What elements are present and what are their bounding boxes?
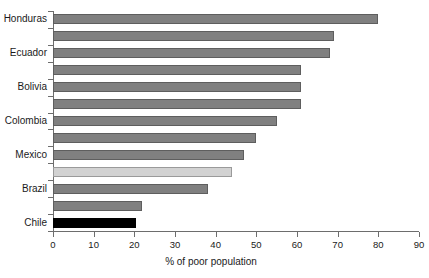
x-tick: [134, 232, 135, 237]
bar: [53, 167, 232, 177]
bar: [53, 48, 330, 58]
y-tick: [48, 79, 53, 80]
x-axis-label: % of poor population: [0, 256, 422, 267]
y-tick: [48, 231, 53, 232]
y-tick: [48, 113, 53, 114]
y-tick-label: Honduras: [0, 13, 47, 24]
y-tick: [48, 146, 53, 147]
y-tick-label: Mexico: [0, 149, 47, 160]
y-tick: [48, 197, 53, 198]
bar: [53, 99, 301, 109]
y-tick: [48, 96, 53, 97]
chart-title-cropped: [0, 0, 422, 2]
bar: [53, 133, 256, 143]
x-tick: [378, 232, 379, 237]
bar: [53, 65, 301, 75]
y-tick: [48, 163, 53, 164]
x-tick: [297, 232, 298, 237]
y-tick: [48, 62, 53, 63]
plot-area: 0102030405060708090 HondurasEcuadorBoliv…: [53, 11, 419, 231]
x-tick: [175, 232, 176, 237]
x-tick-label: 30: [160, 239, 190, 250]
y-tick-label: Colombia: [0, 115, 47, 126]
x-tick-label: 80: [363, 239, 393, 250]
x-tick-label: 60: [282, 239, 312, 250]
bar: [53, 218, 136, 228]
x-tick: [419, 232, 420, 237]
x-tick-label: 20: [119, 239, 149, 250]
bar: [53, 150, 244, 160]
y-tick: [48, 180, 53, 181]
y-tick: [48, 45, 53, 46]
x-axis-line: [53, 231, 419, 232]
bar: [53, 201, 142, 211]
bar: [53, 184, 208, 194]
y-tick-label: Chile: [0, 217, 47, 228]
y-tick-label: Bolivia: [0, 81, 47, 92]
bar: [53, 82, 301, 92]
y-tick-label: Brazil: [0, 183, 47, 194]
x-tick: [338, 232, 339, 237]
x-tick: [53, 232, 54, 237]
x-tick-label: 10: [79, 239, 109, 250]
x-tick-label: 70: [323, 239, 353, 250]
y-tick: [48, 214, 53, 215]
x-tick-label: 90: [404, 239, 429, 250]
x-tick-label: 40: [201, 239, 231, 250]
bar: [53, 116, 277, 126]
y-tick: [48, 28, 53, 29]
x-tick-label: 50: [241, 239, 271, 250]
x-tick: [94, 232, 95, 237]
y-tick-label: Ecuador: [0, 47, 47, 58]
y-tick: [48, 129, 53, 130]
x-tick: [256, 232, 257, 237]
bar: [53, 14, 378, 24]
y-tick: [48, 11, 53, 12]
x-tick-label: 0: [38, 239, 68, 250]
x-tick: [216, 232, 217, 237]
bar: [53, 31, 334, 41]
